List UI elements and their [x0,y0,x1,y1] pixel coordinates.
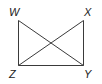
label-z: Z [8,68,17,80]
label-w: W [9,6,21,18]
label-x: X [83,6,92,18]
geometry-diagram: W X Z Y [0,0,102,84]
label-y: Y [84,68,92,80]
